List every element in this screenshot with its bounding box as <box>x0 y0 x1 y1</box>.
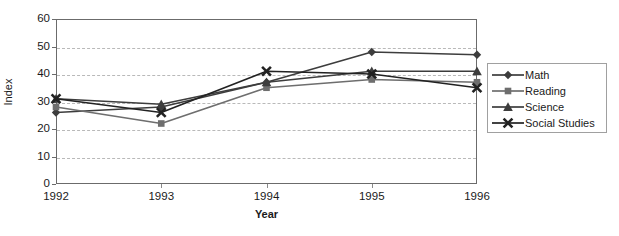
legend-item-math[interactable]: Math <box>488 67 606 83</box>
legend-item-label: Science <box>525 102 564 113</box>
legend-item-reading[interactable]: Reading <box>488 83 606 99</box>
legend-item-social-studies[interactable]: Social Studies <box>488 115 606 131</box>
diamond-marker <box>491 67 525 83</box>
plot-area <box>56 19 477 184</box>
x-marker <box>491 115 525 131</box>
x-axis-tick-mark <box>161 184 162 188</box>
square-marker <box>505 88 512 95</box>
triangle-marker <box>491 99 525 115</box>
x-axis-tick-label: 1996 <box>442 190 512 202</box>
legend-item-label: Reading <box>525 86 566 97</box>
gridline <box>57 75 476 76</box>
y-axis-tick-label: 10 <box>4 151 50 163</box>
y-axis-tick-label: 60 <box>4 13 50 25</box>
line-chart: Index 6050403020100 19921993199419951996… <box>0 0 619 236</box>
gridline <box>57 130 476 131</box>
legend-item-label: Social Studies <box>525 118 595 129</box>
gridline <box>57 48 476 49</box>
square-marker <box>491 83 525 99</box>
x-axis-title: Year <box>56 208 477 220</box>
x-axis-tick-label: 1992 <box>21 190 91 202</box>
y-axis-tick-label: 30 <box>4 96 50 108</box>
legend-item-science[interactable]: Science <box>488 99 606 115</box>
gridline <box>57 158 476 159</box>
y-axis-tick-mark <box>52 184 56 185</box>
x-axis-tick-label: 1993 <box>126 190 196 202</box>
diamond-marker <box>504 71 512 79</box>
y-axis-tick-label: 20 <box>4 123 50 135</box>
gridline <box>57 103 476 104</box>
y-axis-tick-label: 0 <box>4 178 50 190</box>
x-axis-tick-label: 1995 <box>337 190 407 202</box>
x-axis-tick-mark <box>267 184 268 188</box>
x-axis-tick-mark <box>372 184 373 188</box>
y-axis-tick-label: 40 <box>4 68 50 80</box>
y-axis-tick-label: 50 <box>4 41 50 53</box>
chart-legend: MathReadingScienceSocial Studies <box>487 63 607 133</box>
legend-item-label: Math <box>525 70 549 81</box>
x-axis-tick-label: 1994 <box>232 190 302 202</box>
